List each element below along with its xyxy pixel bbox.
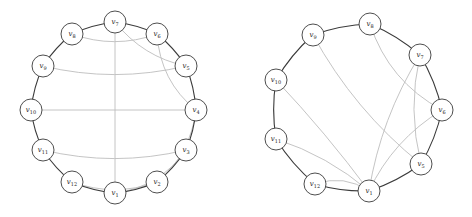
chord-v9-v5 — [313, 35, 421, 164]
node-v8: v8 — [61, 23, 83, 45]
chord-v8-v6 — [370, 24, 442, 110]
chord-v11-v3 — [43, 150, 186, 159]
chord-v8-v6 — [72, 34, 157, 42]
node-v1: v1 — [358, 180, 380, 202]
node-v11: v11 — [32, 139, 54, 161]
node-v12: v12 — [61, 171, 83, 193]
node-v3: v3 — [175, 139, 197, 161]
right-graph-canvas: v1v5v6v7v8v9v10v11v12 — [236, 0, 472, 217]
chord-v10-v1 — [276, 80, 369, 191]
node-v9: v9 — [302, 24, 324, 46]
node-v2: v2 — [146, 171, 168, 193]
node-v6: v6 — [431, 99, 453, 121]
node-v6: v6 — [146, 23, 168, 45]
node-v10: v10 — [20, 99, 42, 121]
node-v12: v12 — [304, 173, 326, 195]
node-v10: v10 — [265, 69, 287, 91]
node-v8: v8 — [359, 13, 381, 35]
left-graph: v1v2v3v4v5v6v7v8v9v10v11v12 — [0, 0, 236, 217]
node-v11: v11 — [265, 128, 287, 150]
node-v5: v5 — [410, 153, 432, 175]
node-v7: v7 — [104, 11, 126, 33]
nodes: v1v2v3v4v5v6v7v8v9v10v11v12 — [20, 11, 207, 204]
right-graph: v1v5v6v7v8v9v10v11v12 — [236, 0, 472, 217]
node-v7: v7 — [409, 44, 431, 66]
nodes: v1v5v6v7v8v9v10v11v12 — [265, 13, 453, 202]
node-v5: v5 — [175, 55, 197, 77]
chord-v7-v5 — [414, 55, 421, 164]
node-v9: v9 — [32, 55, 54, 77]
node-v4: v4 — [185, 99, 207, 121]
left-graph-canvas: v1v2v3v4v5v6v7v8v9v10v11v12 — [0, 0, 236, 217]
node-v1: v1 — [104, 182, 126, 204]
